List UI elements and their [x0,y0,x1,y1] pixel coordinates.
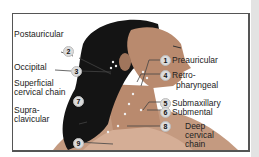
badge-7: 7 [73,96,84,107]
page-margin-strip [251,0,259,157]
label-retro-line1: Retro- [172,71,196,80]
label-superficial-line2: cervical chain [14,88,66,97]
label-preauricular: Preauricular [172,56,218,65]
badge-3: 3 [71,66,82,77]
label-deep-line3: chain [185,140,205,149]
label-postauricular: Postauricular [14,30,64,39]
label-occipital: Occipital [14,63,47,72]
badge-6: 6 [160,107,171,118]
label-supra-line2: clavicular [14,115,49,124]
badge-1: 1 [160,55,171,66]
badge-2: 2 [63,46,74,57]
label-retro-line2: pharyngeal [176,81,218,90]
diagram-frame: Postauricular 2 Occipital 3 Superficial … [12,13,250,152]
badge-8: 8 [160,121,171,132]
label-submental: Submental [172,108,213,117]
badge-4: 4 [160,70,171,81]
badge-9: 9 [73,138,84,149]
